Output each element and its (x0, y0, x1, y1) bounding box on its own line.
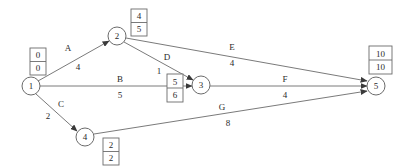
latest-time-2: 5 (137, 24, 142, 34)
node-label-2: 2 (115, 31, 120, 41)
node-4: 4 (76, 128, 94, 146)
edge-activity-label-F: F (282, 74, 287, 84)
latest-time-5: 10 (376, 62, 386, 72)
earliest-time-2: 4 (137, 11, 142, 21)
edge-duration-C: 2 (46, 111, 51, 121)
edge-duration-F: 4 (283, 90, 288, 100)
edge-duration-E: 4 (230, 58, 235, 68)
edge-activity-label-D: D (164, 52, 171, 62)
earliest-time-3: 5 (173, 77, 178, 87)
edge-A: A4 (38, 41, 109, 81)
node-label-5: 5 (374, 81, 379, 91)
edge-G: G8 (94, 91, 367, 134)
edge-line-A (38, 41, 109, 81)
edge-activity-label-E: E (229, 42, 235, 52)
node-label-4: 4 (83, 132, 88, 142)
node-3: 3 (192, 76, 210, 94)
earliest-time-5: 10 (376, 49, 386, 59)
latest-time-1: 0 (36, 63, 41, 73)
node-5: 5 (367, 77, 385, 95)
edge-F: F4 (210, 74, 367, 100)
edge-line-C (36, 94, 77, 131)
edge-duration-A: 4 (76, 62, 81, 72)
edge-line-E (126, 38, 367, 81)
earliest-time-1: 0 (36, 50, 41, 60)
earliest-time-4: 2 (109, 140, 114, 150)
time-box-node-5: 1010 (369, 46, 392, 74)
node-2: 2 (108, 27, 126, 45)
edge-duration-B: 5 (118, 90, 123, 100)
edge-duration-D: 1 (157, 66, 162, 76)
edge-E: E4 (126, 38, 367, 81)
network-diagram: A4B5C2D1E4F4G8 004556221010 12345 (0, 0, 401, 168)
time-box-node-4: 22 (103, 138, 119, 165)
node-label-1: 1 (29, 81, 34, 91)
time-box-node-1: 00 (30, 48, 46, 75)
network-diagram-canvas: A4B5C2D1E4F4G8 004556221010 12345 (0, 0, 401, 168)
node-1: 1 (22, 77, 40, 95)
nodes-layer: 12345 (22, 27, 385, 146)
edge-line-G (94, 91, 367, 134)
edge-activity-label-G: G (219, 102, 226, 112)
edge-duration-G: 8 (226, 118, 231, 128)
edge-C: C2 (36, 94, 77, 131)
time-box-node-3: 56 (167, 74, 183, 102)
edge-activity-label-C: C (58, 99, 64, 109)
latest-time-4: 2 (109, 153, 114, 163)
edge-activity-label-A: A (65, 43, 72, 53)
node-label-3: 3 (199, 80, 204, 90)
edge-activity-label-B: B (117, 74, 123, 84)
time-box-node-2: 45 (131, 9, 147, 36)
latest-time-3: 6 (173, 90, 178, 100)
